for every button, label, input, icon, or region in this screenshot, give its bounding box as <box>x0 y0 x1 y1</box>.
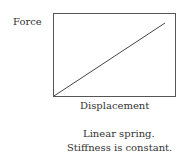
spring-diagram: Force Displacement Linear spring. Stiffn… <box>0 0 192 158</box>
x-axis-label: Displacement <box>80 100 149 111</box>
force-displacement-line <box>54 23 165 96</box>
y-axis-label: Force <box>13 16 42 27</box>
caption-line-2: Stiffness is constant. <box>67 142 172 153</box>
caption-line-1: Linear spring. <box>83 128 155 139</box>
